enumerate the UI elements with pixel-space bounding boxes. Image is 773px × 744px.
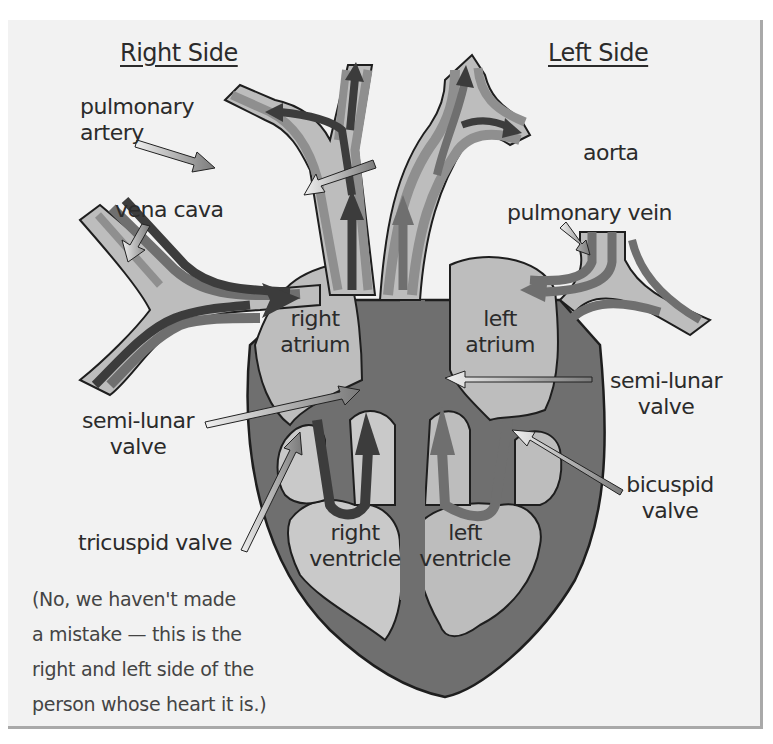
vena-cava-label: vena cava [115, 197, 224, 223]
right-side-heading: Right Side [120, 40, 238, 66]
right-ventricle-label: right ventricle [300, 520, 410, 572]
semi-lunar-valve-right-label: semi-lunar valve [68, 408, 208, 460]
side-orientation-note: (No, we haven't made a mistake — this is… [32, 582, 292, 722]
pulmonary-vein-label: pulmonary vein [507, 200, 672, 226]
pulmonary-artery-label: pulmonary artery [80, 94, 194, 146]
tricuspid-valve-label: tricuspid valve [78, 530, 232, 556]
left-side-heading: Left Side [548, 40, 648, 66]
left-atrium-label: left atrium [460, 306, 540, 358]
left-ventricle-label: left ventricle [410, 520, 520, 572]
right-atrium-label: right atrium [275, 306, 355, 358]
semi-lunar-valve-left-label: semi-lunar valve [596, 368, 736, 420]
aorta-label: aorta [583, 140, 639, 166]
bicuspid-valve-label: bicuspid valve [615, 472, 725, 524]
pulmonary-artery-vessel [225, 62, 375, 295]
